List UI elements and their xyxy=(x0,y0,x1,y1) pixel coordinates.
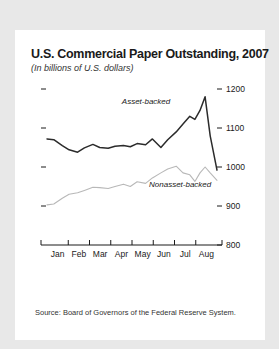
chart-title: U.S. Commercial Paper Outstanding, 2007 xyxy=(31,47,269,61)
y-axis-tick-label: 1100 xyxy=(226,123,244,133)
chart-plot-area xyxy=(31,85,227,266)
x-axis-tick-label: Aug xyxy=(193,249,219,259)
chart-source-note: Source: Board of Governors of the Federa… xyxy=(35,308,236,317)
chart-svg xyxy=(31,85,227,266)
series-label-nonasset-backed: Nonasset-backed xyxy=(149,180,211,189)
series-label-asset-backed: Asset-backed xyxy=(122,97,170,106)
y-axis-tick-label: 900 xyxy=(226,201,240,211)
y-axis-tick-label: 1000 xyxy=(226,162,245,172)
chart-subtitle: (In billions of U.S. dollars) xyxy=(31,63,134,73)
y-axis-tick-label: 800 xyxy=(226,240,240,250)
chart-card: U.S. Commercial Paper Outstanding, 2007 … xyxy=(15,30,265,340)
y-axis-tick-label: 1200 xyxy=(226,84,245,94)
